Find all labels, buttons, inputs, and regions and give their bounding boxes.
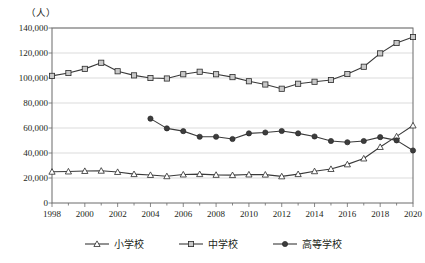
marker-circle xyxy=(263,130,268,135)
marker-circle xyxy=(378,135,383,140)
marker-square xyxy=(131,73,136,78)
data-point-circle-filled xyxy=(345,140,350,145)
marker-square xyxy=(66,70,71,75)
data-point-circle-filled xyxy=(181,129,186,134)
data-point-square-open xyxy=(115,69,120,74)
chart-plot-area xyxy=(0,0,425,263)
marker-square xyxy=(296,81,301,86)
data-point-square-open xyxy=(213,72,218,77)
marker-circle xyxy=(181,129,186,134)
marker-circle xyxy=(279,128,284,133)
x-axis-label: 2012 xyxy=(273,209,291,219)
marker-square xyxy=(378,51,383,56)
series-2 xyxy=(49,34,415,91)
data-point-circle-filled xyxy=(213,134,218,139)
marker-square xyxy=(279,86,284,91)
data-point-circle-filled xyxy=(296,131,301,136)
marker-square xyxy=(188,241,193,246)
data-point-square-open xyxy=(328,77,333,82)
marker-square xyxy=(345,71,350,76)
legend-marker-icon xyxy=(272,239,298,249)
legend-marker-icon xyxy=(84,239,110,249)
chart-legend: 小学校中学校高等学校 xyxy=(0,236,425,251)
marker-square xyxy=(164,76,169,81)
data-point-square-open xyxy=(246,79,251,84)
data-point-square-open xyxy=(197,69,202,74)
data-point-square-open xyxy=(345,71,350,76)
data-point-square-open xyxy=(131,73,136,78)
data-point-circle-filled xyxy=(279,128,284,133)
data-point-circle-filled xyxy=(230,136,235,141)
marker-square xyxy=(181,72,186,77)
data-point-square-open xyxy=(279,86,284,91)
data-point-square-open xyxy=(378,51,383,56)
marker-circle xyxy=(282,241,287,246)
legend-item-3[interactable]: 高等学校 xyxy=(272,236,342,251)
data-point-square-open xyxy=(49,73,54,78)
marker-circle xyxy=(410,148,415,153)
marker-square xyxy=(115,69,120,74)
marker-circle xyxy=(164,126,169,131)
data-point-circle-filled xyxy=(148,116,153,121)
data-point-square-open xyxy=(312,79,317,84)
series-line xyxy=(52,126,413,177)
data-point-circle-filled xyxy=(328,138,333,143)
marker-square xyxy=(263,82,268,87)
marker-circle xyxy=(230,136,235,141)
data-point-circle-filled xyxy=(164,126,169,131)
chart-container: （人） 020,00040,00060,00080,000100,000120,… xyxy=(0,0,425,263)
marker-circle xyxy=(246,131,251,136)
marker-square xyxy=(230,75,235,80)
marker-triangle xyxy=(410,122,416,128)
marker-circle xyxy=(148,116,153,121)
series-3 xyxy=(148,116,416,153)
legend-item-1[interactable]: 小学校 xyxy=(84,236,144,251)
series-1 xyxy=(49,122,416,178)
marker-square xyxy=(99,60,104,65)
legend-label: 高等学校 xyxy=(302,236,342,251)
marker-square xyxy=(148,75,153,80)
data-point-square-open xyxy=(148,75,153,80)
data-point-triangle-open xyxy=(410,122,416,128)
marker-square xyxy=(49,73,54,78)
x-axis-label: 2014 xyxy=(306,209,324,219)
data-point-square-open xyxy=(361,64,366,69)
marker-square xyxy=(394,40,399,45)
series-line xyxy=(52,37,413,89)
data-point-square-open xyxy=(263,82,268,87)
data-point-square-open xyxy=(230,75,235,80)
data-point-circle-filled xyxy=(378,135,383,140)
legend-item-2[interactable]: 中学校 xyxy=(178,236,238,251)
marker-square xyxy=(312,79,317,84)
marker-square xyxy=(361,64,366,69)
data-point-circle-filled xyxy=(197,134,202,139)
data-point-square-open xyxy=(99,60,104,65)
marker-circle xyxy=(328,138,333,143)
legend-label: 中学校 xyxy=(208,236,238,251)
marker-triangle xyxy=(361,155,367,161)
marker-circle xyxy=(296,131,301,136)
marker-circle xyxy=(213,134,218,139)
marker-square xyxy=(213,72,218,77)
data-point-circle-filled xyxy=(282,241,287,246)
data-point-circle-filled xyxy=(394,138,399,143)
x-axis-label: 2002 xyxy=(109,209,127,219)
data-point-square-open xyxy=(410,34,415,39)
marker-square xyxy=(197,69,202,74)
data-point-circle-filled xyxy=(361,138,366,143)
data-point-circle-filled xyxy=(410,148,415,153)
marker-circle xyxy=(345,140,350,145)
data-point-square-open xyxy=(188,241,193,246)
data-point-square-open xyxy=(82,66,87,71)
legend-marker-icon xyxy=(178,239,204,249)
x-axis-label: 2016 xyxy=(338,209,356,219)
x-axis-label: 2020 xyxy=(404,209,422,219)
data-point-circle-filled xyxy=(312,134,317,139)
data-point-square-open xyxy=(181,72,186,77)
marker-square xyxy=(82,66,87,71)
data-point-square-open xyxy=(296,81,301,86)
marker-square xyxy=(246,79,251,84)
marker-square xyxy=(410,34,415,39)
data-point-square-open xyxy=(66,70,71,75)
data-point-circle-filled xyxy=(246,131,251,136)
